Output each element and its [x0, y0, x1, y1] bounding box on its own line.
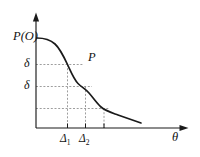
x-tick-label-delta-2-symbol: Δ — [79, 132, 86, 144]
x-tick-label-delta-2: Δ2 — [79, 133, 90, 147]
x-tick-label-delta-1-subscript: 1 — [67, 138, 71, 147]
curve-point-label-p: P — [88, 51, 96, 64]
y-axis-arrow-icon — [33, 13, 39, 22]
x-tick-label-delta-2-subscript: 2 — [86, 138, 90, 147]
y-tick-label-delta-lower: δ — [24, 79, 30, 91]
x-axis-label: θ — [172, 131, 178, 144]
x-axis-arrow-icon — [180, 125, 189, 131]
axes-group — [33, 13, 189, 132]
figure-container: P(O) δ δ P θ Δ1 Δ2 — [0, 0, 200, 157]
guide-lines-group — [36, 65, 110, 129]
x-tick-label-delta-1: Δ1 — [60, 133, 71, 147]
x-axis-ticks-group — [68, 124, 105, 129]
x-tick-label-delta-1-symbol: Δ — [60, 132, 67, 144]
y-tick-label-delta-upper: δ — [24, 57, 30, 69]
figure-canvas — [0, 0, 200, 157]
y-axis-label: P(O) — [13, 30, 38, 43]
